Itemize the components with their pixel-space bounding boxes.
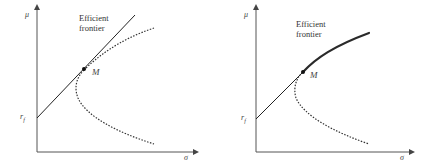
hyperbola-lower-branch xyxy=(76,70,154,144)
annotation-line-2: frontier xyxy=(296,30,326,40)
rf-label-subscript: f xyxy=(244,118,246,124)
y-axis-label: μ xyxy=(25,11,29,19)
capital-market-line-segment xyxy=(256,72,303,119)
hyperbola-lower-branch xyxy=(295,72,369,144)
market-portfolio-label: M xyxy=(92,68,100,77)
right-diagram: μ σ rf M Efficient frontier xyxy=(216,0,432,166)
hyperbola-upper-branch xyxy=(84,28,154,70)
x-axis-label: σ xyxy=(400,154,404,162)
efficient-frontier-annotation: Efficient frontier xyxy=(79,14,109,33)
rf-label: rf xyxy=(241,114,246,124)
left-diagram: μ σ rf M Efficient frontier xyxy=(0,0,216,166)
efficient-frontier-annotation: Efficient frontier xyxy=(296,20,326,39)
market-portfolio-point xyxy=(82,67,86,71)
rf-label: rf xyxy=(20,113,25,123)
rf-label-subscript: f xyxy=(23,117,25,123)
y-axis-label: μ xyxy=(244,11,248,19)
x-axis-label: σ xyxy=(184,154,188,162)
annotation-line-2: frontier xyxy=(79,24,109,34)
market-portfolio-point xyxy=(301,70,305,74)
market-portfolio-label: M xyxy=(310,71,318,80)
